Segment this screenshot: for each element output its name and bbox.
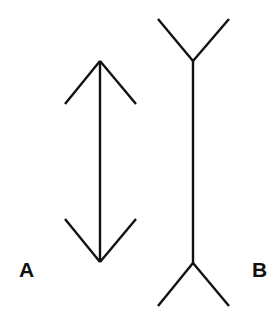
fin-line (65, 219, 100, 262)
fin-line (100, 61, 136, 104)
fin-line (158, 19, 193, 61)
fin-line (65, 61, 100, 104)
figure-b-label: B (252, 259, 267, 280)
fin-line (158, 263, 193, 306)
figure-a-arrow-inward-fins (65, 61, 136, 262)
muller-lyer-diagram (0, 0, 280, 320)
figure-b-arrow-outward-fins (158, 19, 229, 306)
figure-a-label: A (19, 259, 34, 280)
fin-line (193, 263, 229, 306)
fin-line (193, 19, 229, 61)
fin-line (100, 219, 136, 262)
